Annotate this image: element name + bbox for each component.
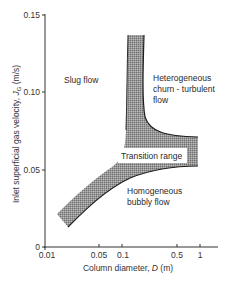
transition-range-label: Transition range bbox=[121, 151, 182, 161]
x-tick-005: 0.05 bbox=[91, 250, 108, 260]
y-tick-005: 0.05 bbox=[23, 165, 40, 175]
y-axis-label: Inlet superficial gas velocity, JG (m/s) bbox=[11, 65, 22, 203]
x-tick-1: 1 bbox=[198, 250, 203, 260]
slug-flow-label: Slug flow bbox=[64, 75, 99, 85]
heterogeneous-label-line2: churn - turbulent bbox=[153, 84, 216, 94]
x-tick-01: 0.1 bbox=[117, 250, 129, 260]
x-tick-001: 0.01 bbox=[39, 250, 56, 260]
x-axis-label: Column diameter, D (m) bbox=[83, 263, 173, 273]
homogeneous-label-line1: Homogeneous bbox=[127, 186, 182, 196]
y-tick-015: 0.15 bbox=[23, 10, 40, 20]
heterogeneous-label-line3: flow bbox=[153, 95, 169, 105]
heterogeneous-label-line1: Heterogeneous bbox=[153, 73, 211, 83]
x-tick-05: 0.5 bbox=[171, 250, 183, 260]
flow-regime-chart: Transition range 0 0.05 0.10 0.15 0.01 0… bbox=[0, 0, 228, 284]
y-tick-010: 0.10 bbox=[23, 87, 40, 97]
homogeneous-label-line2: bubbly flow bbox=[127, 197, 170, 207]
